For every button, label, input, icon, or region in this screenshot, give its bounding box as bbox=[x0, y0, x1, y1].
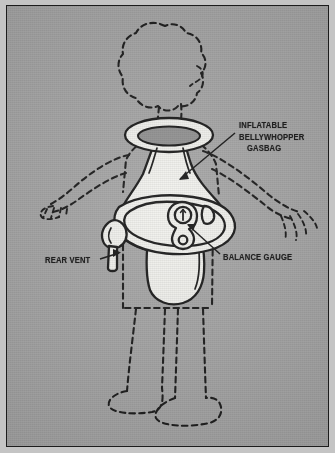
ghost-finger-right-2 bbox=[290, 216, 297, 240]
ghost-finger-left-3 bbox=[59, 208, 61, 217]
ghost-leg-right-outer bbox=[203, 309, 206, 398]
illustration-page: .dash{ fill:none; stroke:#141414; stroke… bbox=[0, 0, 335, 453]
inflatable-gasbag-label: INFLATABLE BELLYWHOPPER GASBAG bbox=[239, 119, 304, 154]
collar-ring bbox=[125, 118, 213, 152]
ghost-leg-right-inner bbox=[175, 309, 178, 398]
gasbag-device-group bbox=[102, 118, 235, 304]
illustration-frame: .dash{ fill:none; stroke:#141414; stroke… bbox=[6, 5, 329, 447]
gasbag-label-line3: GASBAG bbox=[239, 142, 304, 154]
illustration-artwork: .dash{ fill:none; stroke:#141414; stroke… bbox=[7, 6, 329, 447]
ghost-finger-right-1 bbox=[281, 216, 286, 240]
ghost-head bbox=[119, 23, 206, 111]
balance-gauge-label: BALANCE GAUGE bbox=[223, 251, 292, 263]
rear-vent-spout bbox=[108, 246, 117, 271]
ghost-foot-right bbox=[155, 398, 221, 426]
ghost-finger-left-4 bbox=[66, 209, 67, 216]
balance-gauge-knob bbox=[179, 236, 188, 245]
rear-vent-label: REAR VENT bbox=[45, 254, 90, 266]
ghost-leg-left-inner bbox=[162, 309, 165, 388]
ghost-finger-left-2 bbox=[51, 208, 54, 218]
gasbag-label-line2: BELLYWHOPPER bbox=[239, 131, 304, 143]
gasbag-label-line1: INFLATABLE bbox=[239, 119, 304, 131]
ghost-arm-left-top bbox=[49, 155, 129, 205]
ghost-leg-left-outer bbox=[127, 309, 136, 391]
rear-vent-body bbox=[102, 220, 127, 248]
ghost-foot-left bbox=[109, 388, 163, 413]
ghost-jaw bbox=[190, 66, 203, 86]
ghost-finger-right-3 bbox=[298, 214, 306, 237]
ghost-finger-right-4 bbox=[304, 211, 317, 228]
belt-side-fitting bbox=[202, 206, 214, 224]
ghost-arm-left-bottom bbox=[53, 173, 126, 212]
